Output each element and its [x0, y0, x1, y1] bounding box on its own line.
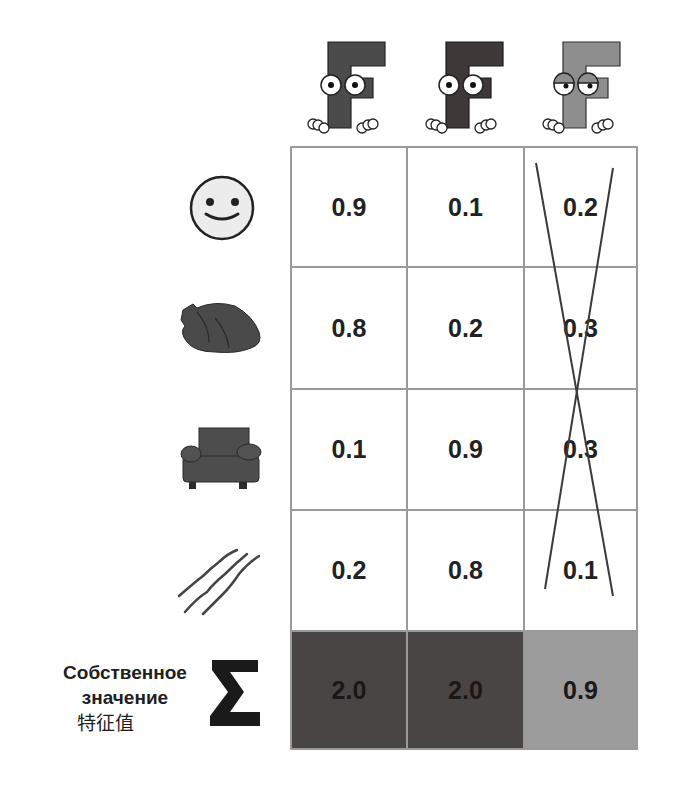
eigenvalue-label-ru-line1: Собственное [40, 660, 210, 685]
matrix-cell: 0.3 [523, 388, 638, 511]
matrix-cell: 0.1 [406, 146, 525, 268]
eigenvalue-label-ru-line2: значение [40, 685, 210, 710]
smiley-face-icon [177, 170, 267, 250]
scratch-marks-icon [175, 542, 265, 622]
armchair-icon [177, 420, 267, 500]
roast-chicken-icon [175, 292, 265, 372]
eigenvalue-cell: 2.0 [406, 630, 525, 750]
component-matrix: 0.9 0.1 0.2 0.8 0.2 0.3 0.1 0.9 0.3 0.2 … [290, 146, 638, 750]
sum-sigma-icon [208, 658, 263, 728]
matrix-cell: 0.8 [290, 266, 408, 390]
matrix-cell: 0.2 [290, 509, 408, 632]
eigenvalue-cell: 2.0 [290, 630, 408, 750]
f-mascot-sleepy-icon [538, 36, 628, 136]
matrix-cell: 0.1 [523, 509, 638, 632]
matrix-cell: 0.2 [406, 266, 525, 390]
matrix-cell: 0.8 [406, 509, 525, 632]
matrix-cell: 0.9 [290, 146, 408, 268]
eigenvalue-label: Собственное значение [40, 660, 210, 710]
matrix-cell: 0.1 [290, 388, 408, 511]
eigenvalue-cell: 0.9 [523, 630, 638, 750]
eigenvalue-label-zh: 特征值 [40, 712, 170, 734]
f-mascot-darker-icon [421, 36, 511, 136]
matrix-cell: 0.9 [406, 388, 525, 511]
matrix-cell: 0.2 [523, 146, 638, 268]
matrix-cell: 0.3 [523, 266, 638, 390]
f-mascot-dark-icon [303, 36, 393, 136]
